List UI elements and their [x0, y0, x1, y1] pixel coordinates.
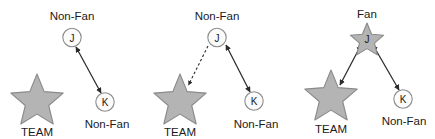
node-j-caption-panel-1: Non-Fan — [50, 10, 95, 22]
edge-j-team-panel-2 — [189, 46, 209, 85]
node-j-letter-panel-3: J — [365, 34, 370, 45]
panel-3: TEAM J Fan K Non-Fan — [305, 8, 427, 135]
node-j-caption-panel-2: Non-Fan — [195, 10, 240, 22]
panel-2: TEAM J Non-Fan K Non-Fan — [154, 10, 279, 138]
node-k-letter-panel-2: K — [251, 96, 258, 107]
node-k-caption-panel-3: Non-Fan — [382, 115, 427, 127]
team-star-panel-1 — [11, 74, 63, 124]
panel-1: TEAM J Non-Fan K Non-Fan — [11, 10, 130, 138]
diagram-figure: TEAM J Non-Fan K Non-Fan TEAM J Non-Fan — [0, 0, 435, 139]
node-j-letter-panel-1: J — [70, 33, 75, 44]
team-label-panel-1: TEAM — [21, 126, 53, 138]
node-j-caption-panel-3: Fan — [357, 8, 377, 20]
team-star-panel-3 — [305, 70, 357, 120]
diagram-canvas: TEAM J Non-Fan K Non-Fan TEAM J Non-Fan — [0, 0, 435, 139]
team-label-panel-3: TEAM — [315, 123, 347, 135]
node-k-letter-panel-3: K — [400, 94, 407, 105]
node-k-letter-panel-1: K — [102, 97, 109, 108]
edge-j-k-panel-2 — [226, 45, 250, 92]
team-star-panel-2 — [154, 74, 206, 124]
edge-j-k-panel-1 — [76, 47, 101, 93]
node-k-caption-panel-1: Non-Fan — [85, 118, 130, 130]
node-k-caption-panel-2: Non-Fan — [234, 118, 279, 130]
node-j-letter-panel-2: J — [215, 33, 220, 44]
team-label-panel-2: TEAM — [164, 126, 196, 138]
